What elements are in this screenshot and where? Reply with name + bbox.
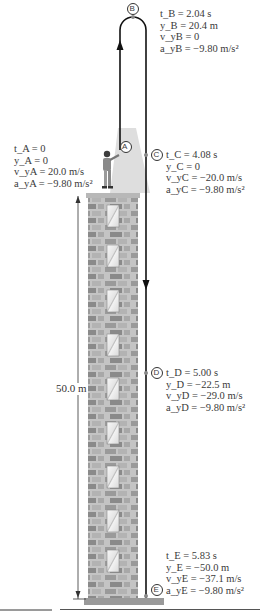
- point-d-values: t_D = 5.00 s y_D = −22.5 m v_yD = −29.0 …: [166, 367, 245, 413]
- upward-arrow-icon: [117, 40, 124, 50]
- free-fall-diagram: [0, 0, 260, 615]
- point-b-acceleration: a_yB = −9.80 m/s²: [160, 43, 239, 55]
- marker-d-letter: D: [154, 367, 160, 379]
- marker-e-letter: E: [154, 584, 159, 596]
- point-d-dot: [144, 371, 148, 375]
- point-c-position: y_C = 0: [166, 161, 245, 173]
- point-c-dot: [144, 153, 148, 157]
- marker-c-letter: C: [154, 149, 160, 161]
- point-e-acceleration: a_yE = −9.80 m/s²: [166, 585, 244, 597]
- point-a-position: y_A = 0: [14, 155, 93, 167]
- point-c-velocity: v_yC = −20.0 m/s: [166, 172, 245, 184]
- point-d-velocity: v_yD = −29.0 m/s: [166, 390, 245, 402]
- point-b-time: t_B = 2.04 s: [160, 8, 239, 20]
- point-c-values: t_C = 4.08 s y_C = 0 v_yC = −20.0 m/s a_…: [166, 149, 245, 195]
- point-e-dot: [144, 594, 148, 598]
- point-d-time: t_D = 5.00 s: [166, 367, 245, 379]
- building: [86, 193, 140, 599]
- building-height-label: 50.0 m: [56, 382, 87, 394]
- point-b-position: y_B = 20.4 m: [160, 20, 239, 32]
- point-e-velocity: v_yE = −37.1 m/s: [166, 573, 244, 585]
- roof-highlight: [110, 128, 150, 193]
- point-a-time: t_A = 0: [14, 143, 93, 155]
- dimension-arrow-up-icon: [76, 196, 81, 203]
- height-dimension: [73, 196, 86, 599]
- point-b-dot: [131, 15, 135, 19]
- marker-a-letter: A: [122, 141, 127, 153]
- bottom-rule-right: [60, 609, 260, 610]
- point-a-acceleration: a_yA = −9.80 m/s²: [14, 178, 93, 190]
- downward-arrow-icon: [143, 280, 150, 290]
- bottom-rule-left: [0, 609, 52, 611]
- point-b-velocity: v_yB = 0: [160, 31, 239, 43]
- point-a-velocity: v_yA = 20.0 m/s: [14, 166, 93, 178]
- point-c-time: t_C = 4.08 s: [166, 149, 245, 161]
- point-e-values: t_E = 5.83 s y_E = −50.0 m v_yE = −37.1 …: [166, 550, 244, 596]
- point-c-acceleration: a_yC = −9.80 m/s²: [166, 184, 245, 196]
- point-d-position: y_D = −22.5 m: [166, 379, 245, 391]
- building-windows: [107, 205, 119, 572]
- point-b-values: t_B = 2.04 s y_B = 20.4 m v_yB = 0 a_yB …: [160, 8, 239, 54]
- point-a-values: t_A = 0 y_A = 0 v_yA = 20.0 m/s a_yA = −…: [14, 143, 93, 189]
- point-e-time: t_E = 5.83 s: [166, 550, 244, 562]
- point-d-acceleration: a_yD = −9.80 m/s²: [166, 402, 245, 414]
- ground: [84, 598, 164, 605]
- point-e-position: y_E = −50.0 m: [166, 562, 244, 574]
- marker-b-letter: B: [130, 3, 135, 15]
- dimension-arrow-down-icon: [76, 591, 81, 598]
